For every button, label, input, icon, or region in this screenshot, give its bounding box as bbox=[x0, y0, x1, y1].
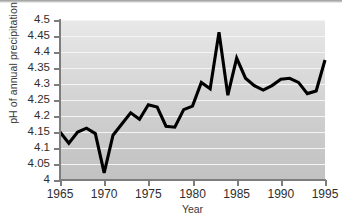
y-axis-label: pH of annual precipitation bbox=[7, 0, 19, 138]
y-tick-mark bbox=[54, 84, 60, 86]
x-tick-label: 1980 bbox=[170, 187, 216, 201]
y-tick-mark bbox=[54, 100, 60, 102]
x-tick-label: 1995 bbox=[302, 187, 342, 201]
y-tick-label: 4.5 bbox=[34, 13, 50, 25]
y-tick-label: 4.3 bbox=[34, 77, 50, 89]
y-tick-mark bbox=[54, 20, 60, 22]
series-line-ph bbox=[60, 20, 325, 180]
x-tick-label: 1965 bbox=[37, 187, 83, 201]
y-tick-mark bbox=[54, 36, 60, 38]
y-tick-mark bbox=[54, 164, 60, 166]
y-tick-label: 4.45 bbox=[28, 29, 50, 41]
x-tick-mark bbox=[60, 180, 62, 186]
x-axis-label: Year bbox=[60, 203, 325, 215]
y-tick-mark bbox=[54, 116, 60, 118]
x-tick-mark bbox=[193, 180, 195, 186]
x-tick-mark bbox=[237, 180, 239, 186]
y-tick-mark bbox=[54, 52, 60, 54]
y-tick-label: 4.15 bbox=[28, 125, 50, 137]
y-tick-mark bbox=[54, 132, 60, 134]
x-tick-mark bbox=[325, 180, 327, 186]
y-tick-mark bbox=[54, 68, 60, 70]
y-tick-label: 4.1 bbox=[34, 141, 50, 153]
y-tick-label: 4.4 bbox=[34, 45, 50, 57]
y-tick-mark bbox=[54, 148, 60, 150]
x-tick-mark bbox=[281, 180, 283, 186]
y-tick-label: 4.2 bbox=[34, 109, 50, 121]
x-tick-mark bbox=[104, 180, 106, 186]
x-tick-mark bbox=[148, 180, 150, 186]
plot-area bbox=[60, 20, 325, 180]
x-tick-label: 1970 bbox=[81, 187, 127, 201]
chart-figure: pH of annual precipitation 44.054.14.154… bbox=[0, 0, 342, 222]
x-tick-label: 1990 bbox=[258, 187, 304, 201]
y-tick-label: 4.25 bbox=[28, 93, 50, 105]
y-tick-label: 4.35 bbox=[28, 61, 50, 73]
y-tick-label: 4.05 bbox=[28, 157, 50, 169]
x-tick-label: 1985 bbox=[214, 187, 260, 201]
y-tick-label: 4 bbox=[44, 173, 50, 185]
x-tick-label: 1975 bbox=[125, 187, 171, 201]
top-divider bbox=[0, 0, 342, 3]
